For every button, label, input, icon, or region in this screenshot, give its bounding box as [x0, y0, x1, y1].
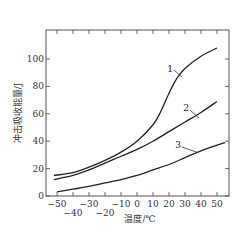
- y-tick-label: 60: [33, 109, 45, 119]
- curves: [54, 48, 225, 192]
- x-tick-label: −20: [96, 208, 115, 218]
- curve-3: [57, 143, 225, 192]
- curve-labels: 123: [167, 64, 199, 153]
- x-tick-label: 10: [147, 199, 159, 209]
- x-tick-label: 20: [163, 199, 175, 209]
- leader-line: [182, 147, 199, 153]
- curve-label-3: 3: [175, 140, 181, 150]
- y-tick-labels: 020406080100: [27, 54, 44, 201]
- x-tick-label: 30: [179, 199, 191, 209]
- y-tick-label: 20: [33, 164, 45, 174]
- impact-energy-chart: −50−30−1001020304050−40−20 020406080100 …: [0, 0, 243, 241]
- x-tick-label: 40: [195, 199, 207, 209]
- y-axis-title: 冲击吸收能量/J: [12, 82, 23, 143]
- x-tick-label: 50: [211, 199, 223, 209]
- curve-label-1: 1: [167, 64, 173, 74]
- x-tick-label: −40: [64, 208, 83, 218]
- y-tick-label: 0: [38, 191, 44, 201]
- plot-frame: [46, 30, 229, 196]
- y-tick-label: 100: [27, 54, 44, 64]
- curve-2: [54, 101, 217, 179]
- y-tick-label: 80: [33, 81, 45, 91]
- x-tick-label: 0: [134, 199, 140, 209]
- x-axis-title: 温度/℃: [124, 213, 155, 224]
- curve-label-2: 2: [183, 103, 189, 113]
- axis-ticks: [46, 30, 229, 196]
- y-tick-label: 40: [33, 136, 45, 146]
